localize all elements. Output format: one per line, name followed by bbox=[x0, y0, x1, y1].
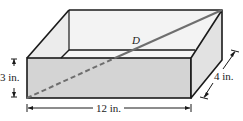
width-label: 4 in. bbox=[214, 70, 234, 82]
length-label: 12 in. bbox=[96, 102, 121, 114]
height-label: 3 in. bbox=[0, 71, 20, 83]
box-diagram: D 3 in. 12 in. 4 in. bbox=[0, 0, 243, 121]
diagonal-label: D bbox=[131, 34, 140, 46]
box-front-face bbox=[27, 58, 191, 98]
